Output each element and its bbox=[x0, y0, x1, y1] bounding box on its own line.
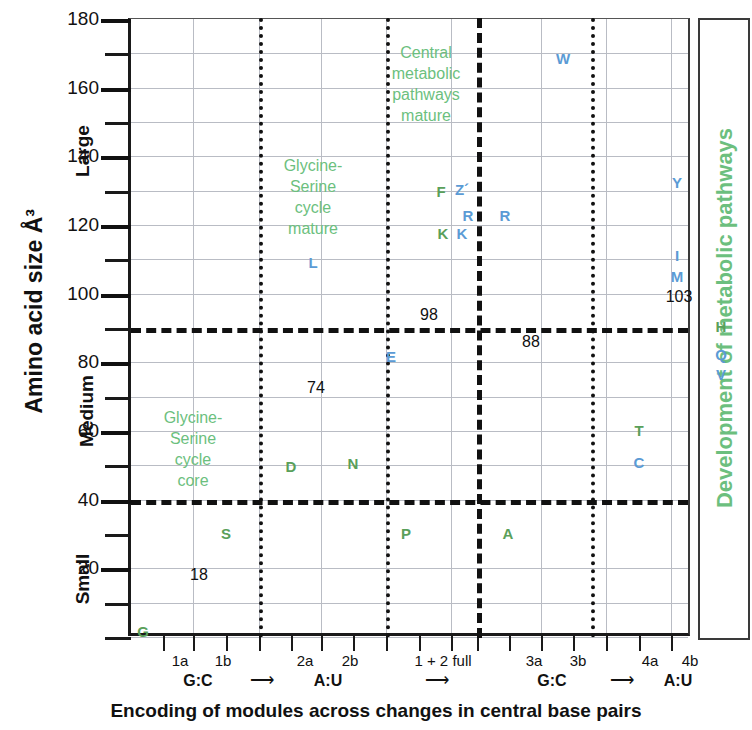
data-point-W: W bbox=[556, 50, 570, 67]
data-point-K-2: K bbox=[457, 225, 468, 242]
zone-line: Glycine- bbox=[284, 155, 343, 176]
x-tick-label-3b: 3b bbox=[570, 652, 587, 669]
x-tick-label-1-2-full: 1 + 2 full bbox=[414, 652, 471, 669]
module-divider-1 bbox=[259, 18, 263, 638]
x-tick-label-4a: 4a bbox=[642, 652, 659, 669]
data-point-R-2: R bbox=[500, 207, 511, 224]
zone-line: cycle bbox=[284, 197, 343, 218]
data-point-R-1: R bbox=[463, 207, 474, 224]
data-point-Q: Q bbox=[715, 346, 727, 363]
zone-line: cycle bbox=[164, 449, 223, 470]
zone-central-metabolic-mature: Central metabolic pathways mature bbox=[392, 42, 460, 126]
zone-line: Serine bbox=[164, 428, 223, 449]
x-tick-label-4b: 4b bbox=[682, 652, 699, 669]
plot-area: 180 160 140 120 100 80 60 40 20 bbox=[128, 18, 690, 636]
data-label-74: 74 bbox=[307, 379, 325, 397]
data-point-Y: Y bbox=[672, 174, 682, 191]
transition-arrow-1: ⟶ bbox=[250, 670, 274, 691]
data-point-S: S bbox=[221, 525, 231, 542]
zone-glycine-serine-core: Glycine- Serine cycle core bbox=[164, 407, 223, 491]
x-tick-label-3a: 3a bbox=[526, 652, 543, 669]
data-point-F: F bbox=[436, 183, 445, 200]
data-label-98: 98 bbox=[420, 306, 438, 324]
zone-line: Glycine- bbox=[164, 407, 223, 428]
data-point-Z: Z´ bbox=[455, 181, 469, 198]
y-tick-label-160: 160 bbox=[67, 77, 99, 99]
zone-line: Central bbox=[392, 42, 460, 63]
reference-line-100 bbox=[131, 328, 688, 333]
zone-line: pathways bbox=[392, 84, 460, 105]
zone-line: mature bbox=[392, 105, 460, 126]
zone-line: metabolic bbox=[392, 63, 460, 84]
transition-arrow-3: ⟶ bbox=[610, 670, 634, 691]
base-pair-label-4: A:U bbox=[664, 672, 692, 690]
data-point-C: C bbox=[634, 454, 645, 471]
y-tick-label-60: 60 bbox=[78, 420, 99, 442]
data-point-V: V bbox=[716, 366, 726, 383]
module-divider-2 bbox=[386, 18, 390, 638]
base-pair-label-3: G:C bbox=[537, 672, 566, 690]
data-point-H: H bbox=[716, 318, 727, 335]
y-tick-label-100: 100 bbox=[67, 283, 99, 305]
zone-glycine-serine-mature: Glycine- Serine cycle mature bbox=[284, 155, 343, 239]
data-label-88: 88 bbox=[522, 333, 540, 351]
data-label-103: 103 bbox=[666, 288, 693, 306]
data-point-P: P bbox=[401, 525, 411, 542]
chart-figure: Amino acid size Å³ Large Medium Small bbox=[0, 0, 752, 730]
x-tick-label-1b: 1b bbox=[215, 652, 232, 669]
base-pair-label-1: G:C bbox=[183, 672, 212, 690]
data-point-E: E bbox=[386, 348, 396, 365]
data-point-T: T bbox=[634, 422, 643, 439]
transition-arrow-2: ⟶ bbox=[425, 670, 449, 691]
y-tick-label-80: 80 bbox=[78, 351, 99, 373]
y-tick-label-120: 120 bbox=[67, 214, 99, 236]
zone-line: mature bbox=[284, 218, 343, 239]
data-label-18: 18 bbox=[190, 566, 208, 584]
data-point-G: G bbox=[137, 623, 149, 640]
data-point-I: I bbox=[675, 247, 679, 264]
zone-line: core bbox=[164, 470, 223, 491]
x-tick-label-1a: 1a bbox=[172, 652, 189, 669]
x-axis-title: Encoding of modules across changes in ce… bbox=[0, 700, 752, 722]
x-tick-label-2a: 2a bbox=[297, 652, 314, 669]
y-tick-label-140: 140 bbox=[67, 145, 99, 167]
data-point-N: N bbox=[348, 455, 359, 472]
data-point-D: D bbox=[286, 458, 297, 475]
data-point-A: A bbox=[503, 525, 514, 542]
module-divider-3 bbox=[477, 18, 482, 638]
reference-line-40 bbox=[131, 500, 688, 505]
y-axis-title: Amino acid size Å³ bbox=[21, 214, 48, 414]
data-point-K-1: K bbox=[438, 225, 449, 242]
base-pair-label-2: A:U bbox=[314, 672, 342, 690]
y-tick-label-180: 180 bbox=[67, 8, 99, 30]
y-tick-label-40: 40 bbox=[78, 489, 99, 511]
y-tick-label-20: 20 bbox=[78, 557, 99, 579]
zone-line: Serine bbox=[284, 176, 343, 197]
data-point-M: M bbox=[671, 268, 684, 285]
x-tick-label-2b: 2b bbox=[342, 652, 359, 669]
data-point-L: L bbox=[308, 254, 317, 271]
module-divider-4 bbox=[591, 18, 595, 638]
